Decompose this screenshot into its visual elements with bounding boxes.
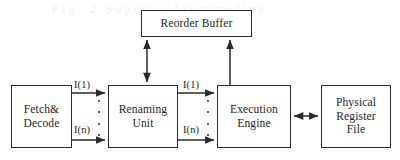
edge-label-fetch-to-renaming-last: I(n) — [74, 124, 90, 135]
ellipsis-dot — [207, 134, 209, 136]
node-reorder-buffer-label: Reorder Buffer — [159, 17, 235, 31]
node-physical-register-file-label: Physical Register File — [334, 96, 378, 137]
ellipsis-dot — [207, 100, 209, 102]
ellipsis-dot — [207, 111, 209, 113]
node-reorder-buffer: Reorder Buffer — [141, 10, 252, 37]
ellipsis-dot — [98, 134, 100, 136]
node-physical-register-file: Physical Register File — [321, 85, 391, 148]
vertical-ellipsis-renaming-execution — [205, 100, 211, 136]
ellipsis-dot — [98, 123, 100, 125]
vertical-ellipsis-fetch-renaming — [96, 100, 102, 136]
diagram-canvas: Fig. 2 Superscalar pipeline Reorder Buff… — [0, 0, 400, 160]
node-renaming-unit: Renaming Unit — [108, 85, 178, 148]
node-fetch-decode: Fetch& Decode — [11, 85, 72, 148]
ellipsis-dot — [98, 100, 100, 102]
edge-label-renaming-to-execution-first: I(1) — [183, 79, 199, 90]
edge-label-renaming-to-execution-last: I(n) — [183, 124, 199, 135]
node-execution-engine-label: Execution Engine — [228, 103, 280, 130]
node-renaming-unit-label: Renaming Unit — [117, 103, 169, 130]
ellipsis-dot — [98, 111, 100, 113]
edge-label-fetch-to-renaming-first: I(1) — [74, 79, 90, 90]
node-execution-engine: Execution Engine — [217, 85, 291, 148]
ellipsis-dot — [207, 123, 209, 125]
node-fetch-decode-label: Fetch& Decode — [21, 103, 61, 130]
